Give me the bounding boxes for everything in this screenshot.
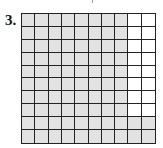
shaded-cell (62, 40, 75, 53)
shaded-cell (35, 130, 48, 143)
unshaded-cell (142, 78, 155, 91)
shaded-cell (62, 117, 75, 130)
shaded-cell (75, 14, 88, 27)
shaded-cell (128, 117, 141, 130)
unshaded-cell (128, 40, 141, 53)
unshaded-cell (142, 40, 155, 53)
shaded-cell (102, 14, 115, 27)
unshaded-cell (142, 27, 155, 40)
shaded-cell (75, 104, 88, 117)
shaded-cell (89, 53, 102, 66)
shaded-cell (89, 40, 102, 53)
shaded-cell (22, 53, 35, 66)
shaded-cell (22, 104, 35, 117)
shaded-cell (35, 40, 48, 53)
shaded-cell (35, 78, 48, 91)
shaded-cell (75, 27, 88, 40)
shaded-cell (22, 40, 35, 53)
unshaded-cell (142, 91, 155, 104)
unshaded-cell (128, 91, 141, 104)
shaded-cell (49, 78, 62, 91)
unshaded-cell (142, 53, 155, 66)
shaded-cell (102, 66, 115, 79)
unshaded-cell (142, 66, 155, 79)
shaded-cell (89, 27, 102, 40)
shaded-cell (22, 78, 35, 91)
shaded-cell (62, 27, 75, 40)
shaded-cell (89, 117, 102, 130)
shaded-cell (62, 91, 75, 104)
unshaded-cell (128, 104, 141, 117)
shaded-cell (89, 78, 102, 91)
shaded-cell (89, 91, 102, 104)
shaded-cell (115, 117, 128, 130)
shaded-cell (62, 130, 75, 143)
shaded-cell (128, 130, 141, 143)
unshaded-cell (142, 104, 155, 117)
shaded-cell (115, 104, 128, 117)
shaded-cell (89, 14, 102, 27)
shaded-cell (49, 14, 62, 27)
shaded-cell (62, 104, 75, 117)
unshaded-cell (128, 14, 141, 27)
shaded-cell (35, 91, 48, 104)
shaded-cell (115, 53, 128, 66)
shaded-cell (49, 91, 62, 104)
hundred-grid (21, 13, 156, 144)
shaded-cell (89, 104, 102, 117)
shaded-cell (115, 130, 128, 143)
unshaded-cell (128, 78, 141, 91)
shaded-cell (35, 66, 48, 79)
shaded-cell (102, 40, 115, 53)
shaded-cell (49, 130, 62, 143)
unshaded-cell (128, 66, 141, 79)
shaded-cell (35, 14, 48, 27)
shaded-cell (102, 104, 115, 117)
shaded-cell (89, 130, 102, 143)
unshaded-cell (142, 14, 155, 27)
cropped-text-fragment (92, 0, 93, 3)
shaded-cell (49, 66, 62, 79)
unshaded-cell (128, 27, 141, 40)
shaded-cell (75, 53, 88, 66)
shaded-cell (75, 40, 88, 53)
shaded-cell (49, 104, 62, 117)
shaded-cell (49, 117, 62, 130)
shaded-cell (115, 66, 128, 79)
shaded-cell (49, 40, 62, 53)
problem-number: 3. (5, 12, 16, 29)
shaded-cell (102, 117, 115, 130)
shaded-cell (49, 53, 62, 66)
shaded-cell (35, 27, 48, 40)
shaded-cell (62, 53, 75, 66)
shaded-cell (62, 78, 75, 91)
shaded-cell (49, 27, 62, 40)
shaded-cell (102, 91, 115, 104)
shaded-cell (75, 130, 88, 143)
shaded-cell (142, 117, 155, 130)
shaded-cell (115, 91, 128, 104)
shaded-cell (75, 91, 88, 104)
shaded-cell (22, 27, 35, 40)
shaded-cell (102, 78, 115, 91)
shaded-cell (22, 66, 35, 79)
shaded-cell (35, 117, 48, 130)
unshaded-cell (128, 53, 141, 66)
shaded-cell (35, 53, 48, 66)
shaded-cell (75, 78, 88, 91)
shaded-cell (22, 130, 35, 143)
shaded-cell (115, 78, 128, 91)
shaded-cell (102, 53, 115, 66)
shaded-cell (115, 40, 128, 53)
shaded-cell (62, 14, 75, 27)
shaded-cell (115, 14, 128, 27)
shaded-cell (75, 66, 88, 79)
shaded-cell (89, 66, 102, 79)
shaded-cell (75, 117, 88, 130)
shaded-cell (35, 104, 48, 117)
shaded-cell (115, 27, 128, 40)
shaded-cell (62, 66, 75, 79)
shaded-cell (22, 117, 35, 130)
shaded-cell (22, 14, 35, 27)
shaded-cell (102, 130, 115, 143)
